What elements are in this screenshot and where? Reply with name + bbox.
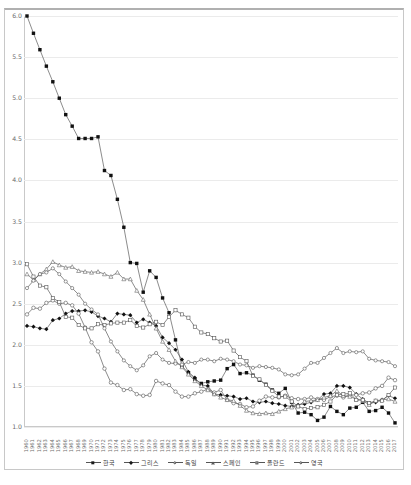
plot-area: 6.05.55.04.54.03.53.02.52.01.51.0 (24, 16, 398, 427)
x-axis-tick-label: 2007 (327, 439, 332, 452)
x-axis-tick-label: 1981 (159, 439, 164, 452)
x-axis-tick-label: 1978 (140, 439, 145, 452)
x-axis-tick-label: 1983 (172, 439, 177, 452)
legend-label: 독일 (185, 460, 197, 466)
y-axis-tick-label: 6.0 (12, 13, 22, 19)
y-axis-tick-label: 2.0 (12, 342, 22, 348)
x-axis-tick-label: 1993 (237, 439, 242, 452)
x-axis-tick-label: 2015 (379, 439, 384, 452)
x-axis-tick-label: 1998 (269, 439, 274, 452)
legend-item-영국[interactable]: 영국 (294, 460, 323, 466)
series-폴란드 (25, 263, 396, 411)
legend-label: 스페인 (223, 460, 241, 466)
x-axis-tick-label: 1991 (224, 439, 229, 452)
legend-item-독일[interactable]: 독일 (168, 460, 197, 466)
x-axis-tick-label: 1965 (56, 439, 61, 452)
x-axis-tick-label: 1961 (30, 439, 35, 452)
x-axis-labels: 1960196119621963196419651966196719681969… (24, 428, 398, 452)
y-axis-tick-label: 5.5 (12, 54, 22, 60)
x-axis-tick-label: 2017 (392, 439, 397, 452)
legend-line-swatch (86, 462, 101, 463)
x-axis-tick-label: 2009 (340, 439, 345, 452)
x-axis-tick-label: 1963 (43, 439, 48, 452)
y-axis-tick-label: 5.0 (12, 95, 22, 101)
series-스페인 (25, 260, 397, 416)
legend-label: 한국 (103, 460, 115, 466)
series-영국 (25, 267, 396, 377)
legend-marker-icon (91, 461, 94, 464)
legend-item-그리스[interactable]: 그리스 (124, 460, 159, 466)
legend-marker-icon (211, 461, 215, 464)
x-axis-tick-label: 1980 (153, 439, 158, 452)
legend-line-swatch (206, 462, 221, 463)
y-axis-tick-label: 2.5 (12, 301, 22, 307)
legend-item-스페인[interactable]: 스페인 (206, 460, 241, 466)
x-axis-tick-label: 1967 (69, 439, 74, 452)
x-axis-tick-label: 2004 (308, 439, 313, 452)
legend-marker-icon (299, 461, 302, 464)
x-axis-tick-label: 1989 (211, 439, 216, 452)
x-axis-tick-label: 2000 (282, 439, 287, 452)
y-axis-tick-label: 1.5 (12, 383, 22, 389)
legend-marker-icon (129, 460, 134, 465)
x-axis-tick-label: 1976 (127, 439, 132, 452)
legend-marker-icon (173, 461, 176, 464)
x-axis-tick-label: 2002 (295, 439, 300, 452)
legend-line-swatch (124, 462, 139, 463)
y-axis-tick-label: 3.5 (12, 218, 22, 224)
x-axis-tick-label: 2011 (353, 439, 358, 452)
legend-label: 영국 (311, 460, 323, 466)
x-axis-tick-label: 1969 (82, 439, 87, 452)
chart-legend: 한국그리스독일스페인폴란드영국 (4, 456, 404, 469)
x-axis-tick-label: 1974 (114, 439, 119, 452)
legend-line-swatch (294, 462, 309, 463)
x-axis-tick-label: 2013 (366, 439, 371, 452)
x-axis-tick-label: 1996 (256, 439, 261, 452)
legend-label: 폴란드 (267, 460, 285, 466)
legend-item-폴란드[interactable]: 폴란드 (250, 460, 285, 466)
legend-item-한국[interactable]: 한국 (86, 460, 115, 466)
series-lines (24, 16, 398, 427)
x-axis-tick-label: 1987 (198, 439, 203, 452)
legend-label: 그리스 (141, 460, 159, 466)
x-axis-tick-label: 1972 (101, 439, 106, 452)
legend-marker-icon (255, 461, 258, 464)
legend-line-swatch (168, 462, 183, 463)
y-axis-tick-label: 4.5 (12, 136, 22, 142)
x-axis-tick-label: 1985 (185, 439, 190, 452)
x-axis-tick-label: 1970 (88, 439, 93, 452)
y-axis-tick-label: 3.0 (12, 259, 22, 265)
chart-root: 6.05.55.04.54.03.53.02.52.01.51.0 196019… (0, 0, 411, 485)
series-한국 (25, 14, 396, 424)
y-axis-tick-label: 1.0 (12, 424, 22, 430)
y-axis-tick-label: 4.0 (12, 177, 22, 183)
series-그리스 (25, 308, 397, 408)
x-axis-tick-label: 2016 (385, 439, 390, 452)
x-axis-tick-label: 1994 (243, 439, 248, 452)
legend-line-swatch (250, 462, 265, 463)
x-axis-tick-label: 2005 (314, 439, 319, 452)
